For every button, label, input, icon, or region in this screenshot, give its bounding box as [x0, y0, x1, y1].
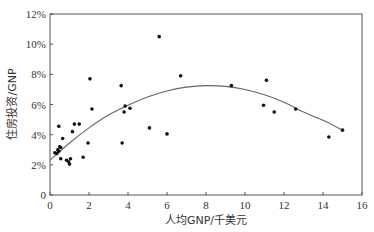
- x-tick-label: 14: [318, 199, 330, 211]
- y-axis-title: 住房投资/GNP: [5, 68, 19, 139]
- y-tick-label: 12%: [26, 8, 46, 20]
- data-point: [69, 157, 73, 161]
- data-point: [88, 77, 92, 81]
- y-tick-label: 10%: [26, 38, 46, 50]
- x-tick-label: 4: [125, 199, 131, 211]
- data-point: [165, 132, 169, 136]
- data-point: [122, 110, 126, 114]
- data-point: [71, 130, 75, 134]
- data-point: [123, 104, 127, 108]
- data-point: [68, 162, 72, 166]
- x-tick-label: 2: [86, 199, 92, 211]
- y-tick-label: 0: [41, 189, 47, 201]
- x-tick-label: 12: [279, 199, 290, 211]
- data-point: [86, 141, 90, 145]
- data-point: [341, 128, 345, 132]
- data-points: [53, 35, 344, 166]
- data-point: [77, 122, 81, 126]
- y-tick-label: 6%: [31, 99, 46, 111]
- data-point: [148, 126, 152, 130]
- data-point: [73, 122, 77, 126]
- data-point: [57, 125, 61, 129]
- data-point: [272, 110, 276, 114]
- data-point: [157, 35, 161, 39]
- plot-border: [50, 14, 362, 195]
- scatter-chart: 02%4%6%8%10%12% 0246810121416 人均GNP/千美元 …: [0, 0, 374, 232]
- data-point: [90, 107, 94, 111]
- y-tick-label: 8%: [31, 68, 46, 80]
- x-tick-label: 10: [240, 199, 252, 211]
- data-point: [262, 103, 266, 107]
- data-point: [120, 141, 124, 145]
- x-tick-label: 8: [203, 199, 209, 211]
- quadratic-fit-line: [50, 86, 343, 161]
- x-tick-label: 0: [47, 199, 53, 211]
- data-point: [327, 135, 331, 139]
- fit-curve: [50, 86, 343, 161]
- plot-frame: [50, 14, 362, 195]
- data-point: [230, 84, 234, 88]
- data-point: [61, 137, 65, 141]
- data-point: [119, 84, 123, 88]
- data-point: [265, 79, 269, 83]
- y-axis: 02%4%6%8%10%12%: [26, 8, 53, 201]
- data-point: [81, 155, 85, 159]
- data-point: [57, 149, 61, 153]
- x-axis-title: 人均GNP/千美元: [165, 214, 247, 227]
- data-point: [59, 157, 63, 161]
- x-tick-label: 6: [164, 199, 170, 211]
- data-point: [59, 146, 63, 150]
- data-point: [179, 74, 183, 78]
- y-tick-label: 4%: [31, 129, 46, 141]
- data-point: [294, 107, 298, 111]
- data-point: [128, 106, 132, 110]
- y-tick-label: 2%: [31, 159, 46, 171]
- x-tick-label: 16: [357, 199, 369, 211]
